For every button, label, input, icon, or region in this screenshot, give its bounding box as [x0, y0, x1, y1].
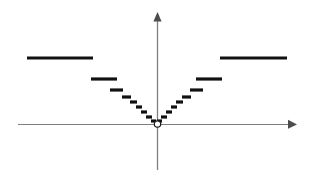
step-function-plot	[0, 0, 310, 179]
figure-canvas	[0, 0, 310, 179]
origin-open-circle-marker	[154, 121, 160, 127]
plot-background	[0, 0, 310, 179]
